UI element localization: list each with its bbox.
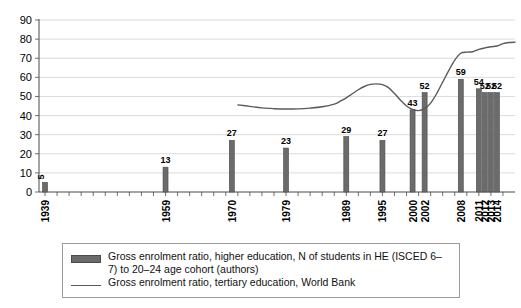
legend-label-bar-series: Gross enrolment ratio, higher education,… — [108, 250, 451, 275]
y-axis-tick-label: 10 — [20, 167, 32, 179]
bar-value-label: 52 — [492, 81, 502, 91]
bar — [482, 93, 487, 192]
legend-swatch-icon — [71, 255, 101, 264]
x-axis-tick-label: 1995 — [377, 200, 388, 223]
legend-line-icon — [71, 281, 101, 290]
bar — [494, 93, 499, 192]
y-axis-tick-label: 0 — [26, 186, 32, 198]
y-axis-tick-label: 20 — [20, 148, 32, 160]
bar-value-label: 5 — [36, 174, 46, 179]
bar — [344, 137, 349, 192]
bar-value-label: 27 — [227, 128, 237, 138]
bar-value-label: 23 — [281, 136, 291, 146]
y-axis-tick-label: 40 — [20, 110, 32, 122]
bar-value-label: 52 — [420, 81, 430, 91]
bar-value-label: 43 — [408, 98, 418, 108]
bar-value-label: 27 — [377, 128, 387, 138]
bar — [458, 79, 463, 192]
x-axis-tick-label: 1959 — [161, 200, 172, 223]
bar — [163, 167, 168, 192]
y-axis-tick-label: 70 — [20, 52, 32, 64]
bar-value-label: 29 — [341, 125, 351, 135]
bar — [410, 110, 415, 192]
bar-value-label: 59 — [456, 67, 466, 77]
x-axis-tick-label: 1970 — [227, 200, 238, 223]
y-axis-tick-label: 80 — [20, 33, 32, 45]
x-axis-tick-label: 2008 — [456, 200, 467, 223]
x-axis-tick-label: 2002 — [420, 200, 431, 223]
bar-value-label: 13 — [161, 155, 171, 165]
y-axis-tick-label: 50 — [20, 90, 32, 102]
y-axis-tick-label: 30 — [20, 129, 32, 141]
x-axis-tick-label: 1939 — [40, 200, 51, 223]
chart-legend: Gross enrolment ratio, higher education,… — [62, 243, 460, 298]
x-axis-tick-label: 1989 — [341, 200, 352, 223]
bar — [43, 182, 48, 192]
legend-item-bar-series: Gross enrolment ratio, higher education,… — [71, 250, 451, 275]
x-axis-tick-label: 1979 — [281, 200, 292, 223]
x-axis-tick-label: 2000 — [408, 200, 419, 223]
y-axis-tick-label: 90 — [20, 14, 32, 26]
bar — [380, 140, 385, 192]
bar — [229, 140, 234, 192]
bar — [476, 89, 481, 192]
chart-container: 0102030405060708090519391319592719702319… — [0, 0, 521, 308]
x-axis-tick-label: 2014 — [492, 200, 503, 223]
legend-label-line-series: Gross enrolment ratio, tertiary educatio… — [108, 276, 451, 289]
y-axis-tick-label: 60 — [20, 71, 32, 83]
bar — [488, 93, 493, 192]
legend-item-line-series: Gross enrolment ratio, tertiary educatio… — [71, 276, 451, 290]
chart-plot-area: 0102030405060708090519391319592719702319… — [0, 0, 521, 240]
bar — [284, 148, 289, 192]
